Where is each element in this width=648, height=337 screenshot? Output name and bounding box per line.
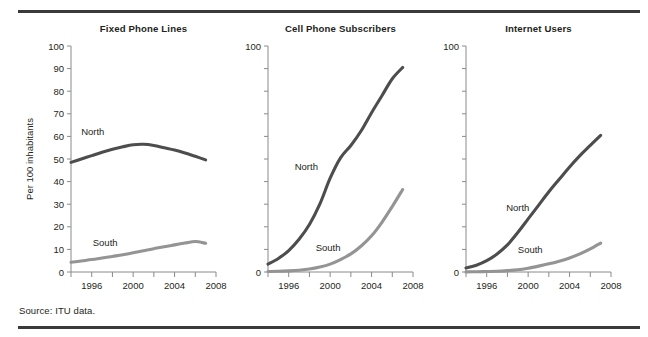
source-note: Source: ITU data. [19,305,95,316]
x-tick-label: 2000 [518,280,539,291]
series-line-south [268,190,403,272]
chart-panels: Fixed Phone Lines01020304050607080901001… [0,18,648,298]
y-tick-label: 0 [59,267,64,278]
x-tick-label: 2008 [205,280,226,291]
y-tick-label: 50 [53,154,64,165]
y-tick-label: 20 [53,221,64,232]
y-tick-label: 0 [454,267,459,278]
y-tick-label: 100 [245,41,261,52]
series-label-south: South [316,242,341,253]
chart-panel-3: Internet Users01001996200020042008NorthS… [443,23,621,291]
series-line-south [71,241,206,262]
x-tick-label: 2000 [123,280,144,291]
y-tick-label: 90 [53,63,64,74]
chart-title: Fixed Phone Lines [100,23,187,34]
x-tick-label: 2004 [361,280,382,291]
y-tick-label: 30 [53,199,64,210]
series-line-north [268,67,403,264]
chart-title: Internet Users [505,23,572,34]
series-label-north: North [506,202,529,213]
multi-panel-line-chart: Fixed Phone Lines01020304050607080901001… [0,18,648,298]
y-tick-label: 100 [443,41,459,52]
y-tick-label: 40 [53,176,64,187]
series-line-north [71,144,206,162]
y-tick-label: 80 [53,86,64,97]
x-tick-label: 1996 [81,280,102,291]
series-label-south: South [518,244,543,255]
y-tick-label: 70 [53,108,64,119]
y-axis-title: Per 100 inhabitants [24,118,35,200]
series-label-north: North [81,126,104,137]
x-tick-label: 2008 [600,280,621,291]
y-tick-label: 60 [53,131,64,142]
chart-panel-2: Cell Phone Subscribers010019962000200420… [245,23,423,291]
series-label-north: North [295,161,318,172]
x-tick-label: 1996 [476,280,497,291]
x-tick-label: 1996 [278,280,299,291]
figure-panel: Fixed Phone Lines01020304050607080901001… [0,0,648,337]
y-tick-label: 100 [48,41,64,52]
series-label-south: South [93,237,118,248]
bottom-rule [18,326,640,329]
chart-panel-1: Fixed Phone Lines01020304050607080901001… [48,23,226,291]
top-rule [18,10,640,13]
y-tick-label: 10 [53,244,64,255]
x-tick-label: 2008 [402,280,423,291]
y-tick-label: 0 [256,267,261,278]
x-tick-label: 2004 [164,280,185,291]
x-tick-label: 2000 [320,280,341,291]
x-tick-label: 2004 [559,280,580,291]
chart-title: Cell Phone Subscribers [285,23,396,34]
